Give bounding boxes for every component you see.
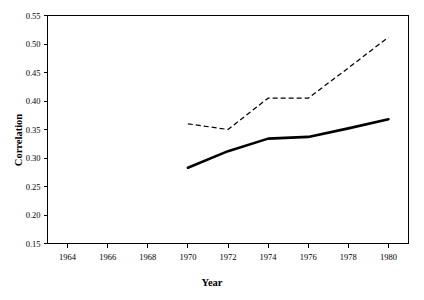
y-tick-label: 0.20 bbox=[26, 210, 41, 220]
y-axis-title: Correlation bbox=[13, 114, 24, 166]
y-axis-tick-labels: 0.150.200.250.300.350.400.450.500.55 bbox=[26, 11, 41, 249]
x-tick-label: 1980 bbox=[380, 252, 397, 262]
y-tick-label: 0.50 bbox=[26, 39, 41, 49]
y-tick-label: 0.55 bbox=[26, 11, 41, 21]
x-tick-label: 1974 bbox=[260, 252, 278, 262]
x-tick-label: 1964 bbox=[59, 252, 77, 262]
x-tick-label: 1970 bbox=[179, 252, 196, 262]
x-tick-label: 1978 bbox=[340, 252, 357, 262]
y-tick-label: 0.35 bbox=[26, 125, 41, 135]
x-axis-title: Year bbox=[202, 277, 223, 288]
y-tick-label: 0.15 bbox=[26, 239, 41, 249]
y-tick-label: 0.40 bbox=[26, 96, 41, 106]
correlation-line-chart: 0.150.200.250.300.350.400.450.500.55 196… bbox=[0, 0, 424, 300]
x-tick-label: 1972 bbox=[220, 252, 237, 262]
chart-container: 0.150.200.250.300.350.400.450.500.55 196… bbox=[0, 0, 424, 300]
x-tick-label: 1968 bbox=[139, 252, 156, 262]
x-tick-label: 1976 bbox=[300, 252, 317, 262]
y-tick-label: 0.25 bbox=[26, 182, 41, 192]
x-tick-label: 1966 bbox=[99, 252, 116, 262]
x-axis-tick-labels: 196419661968197019721974197619781980 bbox=[59, 252, 397, 262]
y-tick-label: 0.30 bbox=[26, 153, 41, 163]
y-tick-label: 0.45 bbox=[26, 68, 41, 78]
